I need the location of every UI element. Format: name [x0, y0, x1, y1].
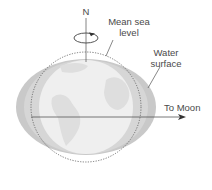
water-surface-label-line2: surface — [146, 58, 186, 69]
water-surface-label: Water surface — [146, 47, 186, 69]
to-moon-label: To Moon — [164, 102, 200, 113]
mean-sea-level-label: Mean sea level — [106, 16, 152, 38]
mean-sea-level-label-line1: Mean sea — [106, 16, 152, 27]
mean-sea-level-label-line2: level — [106, 27, 152, 38]
mean-sea-level-leader — [106, 40, 113, 56]
water-surface-label-line1: Water — [146, 47, 186, 58]
water-surface-leader — [148, 67, 160, 88]
north-label: N — [81, 6, 91, 17]
